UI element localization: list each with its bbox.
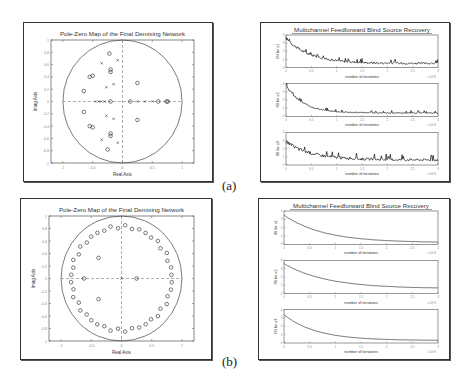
svg-text:1.5: 1.5: [360, 69, 365, 73]
svg-text:0: 0: [47, 100, 49, 104]
x-axis-label: number of iterations: [345, 172, 379, 176]
y-axis-label: Imag Axis: [31, 268, 36, 288]
svg-text:0.5: 0.5: [309, 167, 314, 171]
svg-text:0: 0: [285, 167, 287, 171]
svg-text:0.5: 0.5: [149, 344, 154, 348]
chart-title: Multichannel Feedforward Blind Source Re…: [293, 202, 430, 209]
svg-text:2: 2: [281, 275, 283, 279]
svg-text:2: 2: [386, 345, 388, 349]
svg-text:-0.8: -0.8: [43, 149, 49, 153]
svg-text:x 10^4: x 10^4: [427, 251, 436, 255]
zero-marker: [77, 301, 81, 305]
zero-marker: [85, 241, 89, 245]
svg-text:-0.4: -0.4: [43, 125, 49, 129]
svg-text:1: 1: [281, 333, 283, 337]
y-axis-label: ISI for s2: [274, 269, 278, 284]
svg-text:0.5: 0.5: [150, 166, 155, 170]
zero-marker: [170, 273, 174, 277]
y-axis-label: ISI for s2: [276, 92, 280, 107]
svg-text:2: 2: [283, 98, 285, 102]
svg-text:-1: -1: [59, 344, 62, 348]
zero-marker: [159, 247, 163, 251]
svg-text:4: 4: [281, 209, 283, 213]
zero-marker: [156, 314, 160, 318]
svg-text:0.6: 0.6: [44, 63, 49, 67]
svg-text:3: 3: [281, 267, 283, 271]
chart-title: Multichannel Feedforward Blind Source Re…: [294, 26, 431, 33]
zero-marker: [82, 110, 86, 114]
zero-marker: [144, 322, 148, 326]
zero-marker: [72, 288, 76, 292]
svg-text:3: 3: [437, 246, 439, 250]
svg-text:1.5: 1.5: [360, 118, 365, 122]
zero-marker: [71, 295, 75, 299]
svg-text:0: 0: [283, 345, 285, 349]
zero-marker: [144, 231, 148, 235]
svg-text:x 10^4: x 10^4: [427, 75, 436, 79]
svg-text:2.5: 2.5: [411, 69, 416, 73]
zero-marker: [95, 323, 99, 327]
chart-title: Pole-Zero Map of the Final Demixing Netw…: [60, 30, 186, 37]
svg-text:0.5: 0.5: [308, 345, 313, 349]
svg-text:-0.6: -0.6: [41, 315, 47, 319]
y-axis-label: Imag Axis: [33, 91, 38, 111]
svg-text:-0.4: -0.4: [41, 302, 47, 306]
svg-text:0: 0: [122, 166, 124, 170]
svg-text:4: 4: [283, 33, 285, 37]
svg-text:0.8: 0.8: [44, 51, 49, 55]
isi-curve: [284, 215, 438, 242]
svg-text:2.5: 2.5: [411, 167, 416, 171]
svg-text:-0.2: -0.2: [41, 290, 47, 294]
svg-text:x 10^4: x 10^4: [427, 123, 436, 127]
zero-marker: [130, 227, 134, 231]
svg-text:1: 1: [336, 118, 338, 122]
svg-text:1: 1: [283, 106, 285, 110]
svg-text:-1: -1: [46, 162, 49, 166]
subplot-3: [284, 310, 438, 343]
zero-marker: [165, 251, 169, 255]
svg-text:1: 1: [45, 215, 47, 219]
bsr-plot-a: [286, 34, 438, 166]
zero-marker: [109, 225, 113, 229]
svg-text:3: 3: [437, 345, 439, 349]
svg-text:1: 1: [181, 344, 183, 348]
x-axis-label: number of iterations: [344, 251, 378, 255]
chart-title: Pole-Zero Map of the Final Demixing Netw…: [59, 206, 185, 213]
subplot-1: [286, 35, 438, 68]
svg-text:2: 2: [281, 226, 283, 230]
svg-text:0.5: 0.5: [309, 69, 314, 73]
svg-text:3: 3: [281, 217, 283, 221]
y-axis-label: ISI for s1: [276, 44, 280, 59]
svg-text:-1: -1: [61, 166, 64, 170]
zero-marker: [89, 235, 93, 239]
x-axis-label: Real Axis: [113, 172, 133, 177]
svg-text:1.5: 1.5: [360, 167, 365, 171]
svg-text:4: 4: [283, 130, 285, 134]
svg-text:0: 0: [45, 277, 47, 281]
caption-b: (b): [222, 354, 237, 370]
isi-curve: [286, 141, 438, 161]
zero-marker: [78, 309, 82, 313]
svg-text:-1: -1: [44, 340, 47, 344]
zero-marker: [137, 326, 141, 330]
svg-text:x 10^4: x 10^4: [427, 301, 436, 305]
zero-marker: [165, 302, 169, 306]
x-axis-label: number of iterations: [345, 75, 379, 79]
zero-marker: [109, 70, 113, 74]
svg-text:2: 2: [386, 167, 388, 171]
svg-text:1: 1: [283, 155, 285, 159]
pole-zero-plot-a: [51, 40, 194, 163]
zero-marker: [169, 266, 173, 270]
svg-text:2.5: 2.5: [410, 295, 415, 299]
zero-marker: [97, 256, 101, 260]
svg-text:1: 1: [334, 345, 336, 349]
svg-text:3: 3: [437, 118, 439, 122]
zero-marker: [78, 245, 82, 249]
figure-canvas: Pole-Zero Map of the Final Demixing Netw…: [0, 0, 468, 390]
svg-text:-0.8: -0.8: [41, 327, 47, 331]
zero-marker: [72, 258, 76, 262]
x-axis-label: number of iterations: [345, 123, 379, 127]
svg-text:-0.6: -0.6: [43, 137, 49, 141]
subplot-1: [284, 211, 438, 244]
svg-text:0: 0: [283, 295, 285, 299]
